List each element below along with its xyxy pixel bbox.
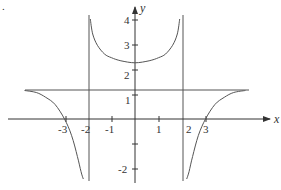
x-tick-label: 3	[203, 123, 209, 135]
rational-function-graph: . x y -3 -2 -1 1 2 3 4 3 2 1 -2	[0, 0, 281, 190]
x-tick-label: 2	[186, 123, 192, 135]
x-axis-label: x	[273, 112, 280, 126]
x-tick-label: 1	[156, 123, 162, 135]
y-tick-label: 3	[124, 39, 130, 51]
y-tick-label: 1	[125, 94, 131, 106]
y-tick-label: -2	[118, 163, 127, 175]
curve-left-branch	[25, 91, 84, 180]
y-axis-label: y	[139, 1, 146, 15]
corner-mark: .	[2, 0, 5, 12]
x-tick-label: -1	[105, 123, 114, 135]
curve-right-branch	[187, 91, 246, 180]
y-tick-label: 2	[124, 69, 130, 81]
y-tick-label: 4	[124, 14, 130, 26]
x-tick-label: -3	[58, 123, 68, 135]
x-tick-label: -2	[81, 123, 90, 135]
